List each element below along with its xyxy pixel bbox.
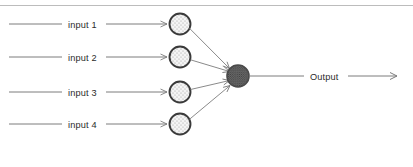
input-node-4 <box>170 114 191 135</box>
output-node <box>227 65 249 87</box>
input-node-1 <box>170 14 191 35</box>
input-node-3 <box>170 82 191 103</box>
input-label-4: input 4 <box>68 120 97 130</box>
edge-input-2-to-output <box>191 60 230 72</box>
edge-input-3-to-output <box>191 81 230 90</box>
input-row-3: input 3 <box>9 81 230 103</box>
output-row: Output <box>249 72 397 82</box>
input-row-4: input 4 <box>9 86 230 135</box>
diagram-canvas: input 1 input 2 input 3 input 4 <box>0 0 413 167</box>
input-label-3: input 3 <box>68 88 97 98</box>
edge-input-4-to-output <box>190 86 230 120</box>
input-node-2 <box>170 47 191 68</box>
output-node-group <box>227 65 249 87</box>
edge-input-1-to-output <box>190 28 230 68</box>
input-row-2: input 2 <box>9 47 230 72</box>
neural-network-diagram: input 1 input 2 input 3 input 4 <box>0 0 413 167</box>
input-row-1: input 1 <box>9 14 230 69</box>
input-label-2: input 2 <box>68 53 97 63</box>
output-label: Output <box>310 72 339 82</box>
input-label-1: input 1 <box>68 20 97 30</box>
